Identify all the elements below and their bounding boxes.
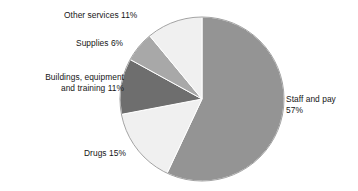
pie-label-supplies: Supplies 6% (76, 38, 123, 49)
pie-label-buildings-equipment-training: Buildings, equipment and training 11% (6, 72, 124, 94)
pie-label-other-services: Other services 11% (64, 10, 137, 21)
pie-slice-group (120, 17, 284, 181)
pie-chart-graphic (118, 15, 286, 183)
pie-label-drugs: Drugs 15% (84, 148, 126, 159)
pie-label-staff-and-pay: Staff and pay 57% (286, 94, 356, 116)
pie-chart-figure: Other services 11% Supplies 6% Buildings… (0, 0, 358, 191)
